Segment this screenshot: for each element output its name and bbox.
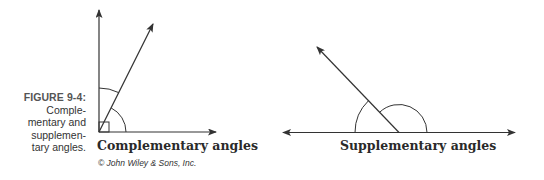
complementary-angles-label: Complementary angles [97, 138, 258, 153]
copyright-credit: © John Wiley & Sons, Inc. [98, 158, 196, 168]
supplementary-angles-diagram [283, 47, 515, 133]
figure-page: FIGURE 9-4: Comple- mentary and suppleme… [0, 0, 544, 180]
supplementary-angles-label: Supplementary angles [340, 138, 496, 153]
inner-angle-arc [111, 108, 126, 132]
right-angle-arc [380, 104, 427, 132]
left-angle-arc [355, 101, 369, 133]
right-angle-marker [99, 122, 109, 132]
angles-diagram [0, 0, 544, 180]
complementary-angles-diagram [99, 10, 216, 132]
outer-angle-arc [99, 88, 119, 93]
diagonal-ray [317, 47, 399, 133]
diagonal-ray [99, 24, 153, 132]
